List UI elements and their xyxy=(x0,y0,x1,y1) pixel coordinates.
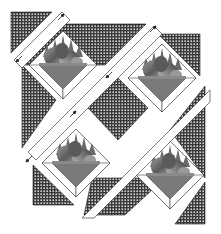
quilt-diagram xyxy=(0,0,221,234)
quilt-diagram-svg xyxy=(0,0,221,234)
